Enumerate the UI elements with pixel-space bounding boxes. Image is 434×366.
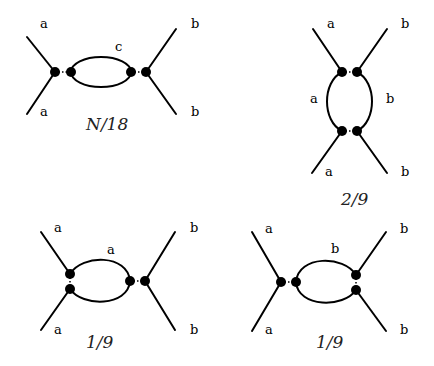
diagram-weight: 2/9	[340, 189, 369, 209]
vertex-dot	[125, 276, 135, 286]
label-top-left: a	[327, 16, 335, 31]
loop-label: c	[115, 39, 122, 54]
label-top-left: a	[265, 221, 273, 236]
vertex-dot	[126, 67, 136, 77]
vertex-dot	[141, 67, 151, 77]
loop-propagator-left	[327, 72, 342, 131]
external-leg-top-right	[145, 232, 175, 281]
external-leg-top-right	[357, 29, 387, 72]
loop-label: b	[331, 241, 339, 256]
vertex-dot	[140, 276, 150, 286]
vertex-dot	[352, 126, 362, 136]
vertex-dot	[291, 277, 301, 287]
label-bottom-left: a	[325, 164, 333, 179]
vertex-dot	[65, 284, 75, 294]
bubble-loop	[71, 57, 131, 87]
label-bottom-right: b	[400, 322, 408, 337]
external-leg-bottom-right	[145, 281, 175, 330]
vertex-dot	[337, 126, 347, 136]
diagram-4: a a b b b 1/9	[252, 221, 408, 352]
diagram-weight: 1/9	[316, 332, 344, 352]
label-top-right: b	[190, 220, 198, 235]
vertex-dot	[352, 67, 362, 77]
label-top-right: b	[191, 16, 199, 31]
external-leg-top-left	[252, 232, 281, 282]
label-bottom-left: a	[54, 322, 62, 337]
vertex-dot	[351, 270, 361, 280]
loop-propagator-right	[357, 72, 372, 131]
vertex-dot	[50, 67, 60, 77]
label-bottom-right: b	[191, 104, 199, 119]
feynman-diagram-figure: a a b b c N/18 a b a b a b 2/9	[0, 0, 434, 366]
diagram-weight: N/18	[85, 114, 128, 134]
label-top-left: a	[40, 16, 48, 31]
external-leg-bottom-right	[356, 290, 386, 331]
loop-label-right: b	[386, 91, 394, 106]
vertex-dot	[351, 285, 361, 295]
external-leg-top-left	[27, 37, 55, 72]
vertex-dot	[337, 67, 347, 77]
diagram-3: a a b b a 1/9	[41, 220, 198, 352]
label-bottom-left: a	[265, 322, 273, 337]
label-top-right: b	[401, 16, 409, 31]
external-leg-top-right	[356, 232, 386, 275]
external-leg-top-left	[313, 29, 342, 72]
vertex-dot	[276, 277, 286, 287]
diagram-weight: 1/9	[86, 332, 114, 352]
label-top-right: b	[400, 221, 408, 236]
loop-propagator-top	[296, 261, 356, 282]
loop-label: a	[107, 242, 115, 257]
diagram-1: a a b b c N/18	[27, 16, 199, 134]
loop-label-left: a	[310, 91, 318, 106]
external-leg-top-left	[41, 232, 70, 274]
loop-propagator-bottom	[296, 282, 356, 303]
vertex-dot	[65, 269, 75, 279]
label-top-left: a	[54, 220, 62, 235]
external-leg-bottom-right	[146, 72, 176, 114]
label-bottom-right: b	[190, 322, 198, 337]
vertex-dot	[66, 67, 76, 77]
label-bottom-right: b	[401, 164, 409, 179]
loop-propagator-bottom	[70, 281, 130, 302]
external-leg-top-right	[146, 29, 176, 72]
label-bottom-left: a	[40, 104, 48, 119]
external-leg-bottom-right	[357, 131, 387, 173]
diagram-2: a b a b a b 2/9	[310, 16, 409, 209]
loop-propagator-top	[70, 260, 130, 281]
